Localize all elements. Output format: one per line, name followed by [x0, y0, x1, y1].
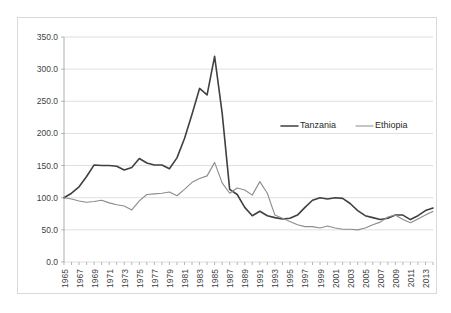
x-axis-tick-label: 1985: [210, 269, 220, 288]
y-axis-tick-label: 0.0: [46, 257, 58, 267]
y-axis-tick-label: 100.0: [37, 193, 59, 203]
x-axis-tick-label: 2009: [391, 269, 401, 288]
x-axis-tick-label: 1975: [135, 269, 145, 288]
x-axis-tick-label: 1973: [120, 269, 130, 288]
x-axis-tick-label: 2013: [421, 269, 431, 288]
line-chart-plot: 0.050.0100.0150.0200.0250.0300.0350.0196…: [18, 18, 438, 295]
y-axis-tick-label: 300.0: [37, 64, 59, 74]
y-axis-tick-label: 150.0: [37, 161, 59, 171]
y-axis-tick-label: 250.0: [37, 96, 59, 106]
x-axis-tick-label: 1997: [300, 269, 310, 288]
x-axis-tick-label: 1991: [255, 269, 265, 288]
y-axis-tick-label: 200.0: [37, 128, 59, 138]
x-axis-tick-label: 1989: [240, 269, 250, 288]
x-axis-tick-label: 1995: [285, 269, 295, 288]
series-line-tanzania: [64, 56, 433, 219]
x-axis-tick-label: 1993: [270, 269, 280, 288]
x-axis-tick-label: 1983: [195, 269, 205, 288]
x-axis-tick-label: 1981: [180, 269, 190, 288]
x-axis-tick-label: 1967: [75, 269, 85, 288]
y-axis-tick-label: 50.0: [41, 225, 58, 235]
x-axis-tick-label: 1999: [316, 269, 326, 288]
x-axis-tick-label: 1977: [150, 269, 160, 288]
x-axis-tick-label: 1987: [225, 269, 235, 288]
x-axis-tick-label: 2001: [331, 269, 341, 288]
y-axis-tick-label: 350.0: [37, 32, 59, 42]
x-axis-tick-label: 2005: [361, 269, 371, 288]
legend-label-tanzania: Tanzania: [300, 120, 336, 130]
chart-figure: 0.050.0100.0150.0200.0250.0300.0350.0196…: [17, 17, 437, 294]
x-axis-tick-label: 2011: [406, 269, 416, 288]
legend-label-ethiopia: Ethiopia: [375, 120, 408, 130]
x-axis-tick-label: 2003: [346, 269, 356, 288]
x-axis-tick-label: 1971: [105, 269, 115, 288]
x-axis-tick-label: 1969: [90, 269, 100, 288]
x-axis-tick-label: 2007: [376, 269, 386, 288]
x-axis-tick-label: 1965: [60, 269, 70, 288]
x-axis-tick-label: 1979: [165, 269, 175, 288]
series-line-ethiopia: [64, 162, 433, 230]
